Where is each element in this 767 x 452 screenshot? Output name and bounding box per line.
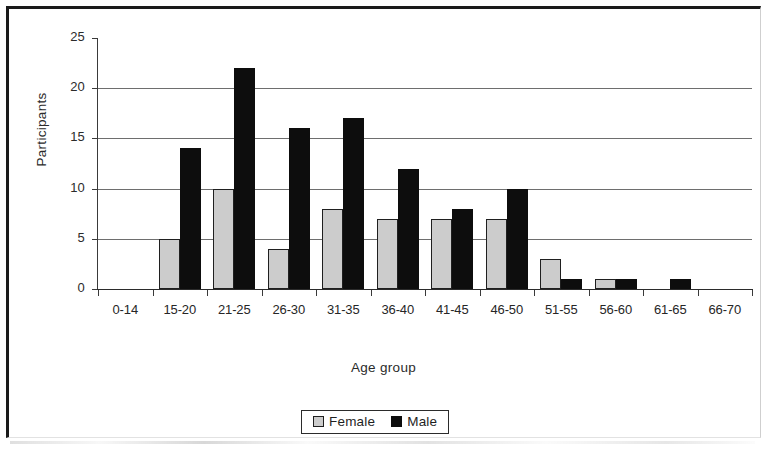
plot-area [98,38,752,289]
x-tick [752,290,753,296]
y-tick-label-20: 20 [45,79,85,94]
x-tick-label-51-55: 51-55 [534,302,589,317]
bar-female-51-55 [540,259,561,289]
legend-label: Male [407,414,437,429]
bar-female-41-45 [431,219,452,289]
x-tick-label-66-70: 66-70 [698,302,753,317]
y-tick-label-15: 15 [45,129,85,144]
x-tick [98,290,99,296]
x-tick-label-46-50: 46-50 [480,302,535,317]
bar-female-56-60 [595,279,616,289]
chart-screenshot: Participants 0510152025 0-1415-2021-2526… [0,0,767,452]
bar-female-26-30 [268,249,289,289]
bar-male-51-55 [561,279,582,289]
x-tick [643,290,644,296]
bar-female-21-25 [213,189,234,289]
bar-female-31-35 [322,209,343,289]
female-swatch-icon [313,416,324,427]
x-tick [698,290,699,296]
bar-group [534,38,589,289]
x-tick-label-56-60: 56-60 [589,302,644,317]
legend-entry-male: Male [391,414,437,429]
bar-male-15-20 [180,148,201,289]
bar-female-46-50 [486,219,507,289]
x-axis-title: Age group [0,360,767,375]
bar-female-36-40 [377,219,398,289]
x-tick-label-41-45: 41-45 [425,302,480,317]
bar-male-56-60 [616,279,637,289]
bar-group [371,38,426,289]
bar-male-36-40 [398,169,419,289]
legend-entry-female: Female [313,414,375,429]
x-tick [316,290,317,296]
y-tick-label-10: 10 [45,180,85,195]
x-tick-label-26-30: 26-30 [262,302,317,317]
bar-group [643,38,698,289]
bar-male-26-30 [289,128,310,289]
bar-male-21-25 [234,68,255,289]
x-tick-label-15-20: 15-20 [153,302,208,317]
bar-group [207,38,262,289]
y-tick-label-0: 0 [45,280,85,295]
bar-group [589,38,644,289]
x-tick-label-0-14: 0-14 [98,302,153,317]
bar-group [153,38,208,289]
bar-male-41-45 [452,209,473,289]
x-tick [534,290,535,296]
bar-group [98,38,153,289]
bar-group [425,38,480,289]
male-swatch-icon [391,416,402,427]
x-tick-label-61-65: 61-65 [643,302,698,317]
grouped-bar-chart: Participants 0510152025 0-1415-2021-2526… [0,0,767,452]
chart-legend: FemaleMale [301,410,449,434]
x-tick-label-21-25: 21-25 [207,302,262,317]
x-tick-label-36-40: 36-40 [371,302,426,317]
bar-male-31-35 [343,118,364,289]
bar-female-15-20 [159,239,180,289]
y-tick-label-25: 25 [45,29,85,44]
x-tick [153,290,154,296]
x-tick [262,290,263,296]
bar-male-46-50 [507,189,528,289]
bar-group [262,38,317,289]
x-tick [207,290,208,296]
x-tick [371,290,372,296]
x-tick-label-31-35: 31-35 [316,302,371,317]
x-tick [480,290,481,296]
legend-label: Female [329,414,375,429]
bar-group [698,38,753,289]
bar-group [480,38,535,289]
x-tick [589,290,590,296]
y-tick-label-5: 5 [45,230,85,245]
bar-group [316,38,371,289]
bar-male-61-65 [670,279,691,289]
x-tick [425,290,426,296]
